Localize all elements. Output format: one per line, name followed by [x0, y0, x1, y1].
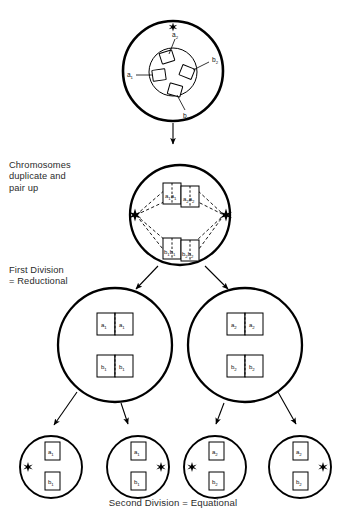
arrow-to-daughter-left [136, 266, 158, 289]
caption-first-division: First Division = Reductional [9, 265, 134, 288]
meiosis-diagram: a2 b2 a1 b1 a1a1 a2a2 [0, 0, 346, 520]
parent-chromosome-a1 [152, 69, 166, 82]
stage-paired-cell: a1a1 a2a2 b1b1 b2b2 [129, 165, 232, 265]
stage-daughter-left: a1 a1 b1 b1 [58, 288, 172, 402]
arrow-to-gamete-1 [54, 392, 77, 425]
arrow-to-daughter-right [205, 266, 228, 289]
stage-gamete-4: a2 b2 [269, 436, 331, 498]
stage-gamete-2: a1 b1 [107, 436, 169, 498]
stage-gamete-1: a1 b1 [20, 436, 82, 498]
daughter-left-membrane [58, 288, 172, 402]
caption-second-division: Second Division = Equational [0, 497, 346, 508]
paired-bivalent-b: b1b1 b2b2 [163, 238, 199, 261]
daughter-right-membrane [188, 288, 302, 402]
stage-daughter-right: a2 a2 b2 b2 [188, 288, 302, 402]
caption-chromosomes-duplicate: Chromosomes duplicate and pair up [9, 160, 129, 194]
arrow-to-gamete-2 [121, 403, 128, 424]
arrow-to-gamete-3 [216, 403, 224, 424]
paired-bivalent-a: a1a1 a2a2 [163, 183, 199, 207]
stage-gamete-3: a2 b2 [184, 436, 246, 498]
meiosis-figure-canvas: a2 b2 a1 b1 a1a1 a2a2 [0, 0, 346, 520]
stage-parent-cell: a2 b2 a1 b1 [123, 21, 223, 121]
arrow-to-gamete-4 [278, 392, 296, 424]
